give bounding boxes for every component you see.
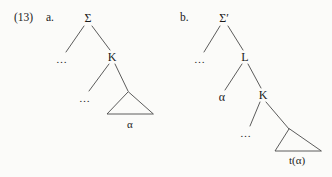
ellipsis-node: … (56, 54, 68, 65)
branch-l-to-k (248, 64, 261, 88)
branch-k-to-triangle (115, 64, 128, 91)
triangle-trace (275, 129, 321, 151)
ellipsis-node: … (194, 54, 206, 65)
triangle-alpha (107, 92, 153, 114)
branch-sigma-to-dots (66, 26, 84, 52)
node-k: K (108, 51, 117, 63)
tree-lines-svg (0, 0, 332, 177)
node-sigma-prime: Σ′ (219, 12, 229, 24)
ellipsis-node: … (79, 93, 91, 104)
example-number: (13) (14, 12, 33, 24)
branch-sigmaprime-to-l (228, 26, 243, 50)
node-l: L (241, 51, 248, 63)
terminal-trace-alpha: t(α) (289, 155, 305, 166)
syntax-tree-figure: (13) a. Σ … K … α b. Σ′ … L α K … t(α) (0, 0, 332, 177)
branch-k-to-triangle (266, 102, 289, 129)
item-letter-a: a. (46, 12, 54, 24)
node-k: K (259, 89, 268, 101)
item-letter-b: b. (180, 12, 189, 24)
ellipsis-node: … (240, 128, 252, 139)
node-alpha: α (219, 91, 225, 103)
branch-l-to-alpha (225, 64, 242, 90)
terminal-alpha: α (127, 119, 133, 130)
branch-sigma-to-k (92, 26, 110, 50)
branch-sigmaprime-to-dots (204, 26, 220, 52)
node-sigma: Σ (85, 12, 92, 24)
branch-k-to-dots (89, 64, 109, 91)
branch-k-to-dots (250, 102, 260, 126)
